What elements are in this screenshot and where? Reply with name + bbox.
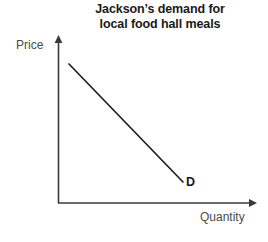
y-axis-arrow-icon xyxy=(55,35,63,43)
x-axis-label: Quantity xyxy=(200,210,245,224)
demand-curve-label: D xyxy=(186,175,195,189)
y-axis-label: Price xyxy=(16,38,43,52)
demand-curve-line xyxy=(69,64,183,182)
plot-area xyxy=(0,0,268,242)
demand-curve-figure: Jackson’s demand for local food hall mea… xyxy=(0,0,268,242)
x-axis-arrow-icon xyxy=(249,199,257,207)
